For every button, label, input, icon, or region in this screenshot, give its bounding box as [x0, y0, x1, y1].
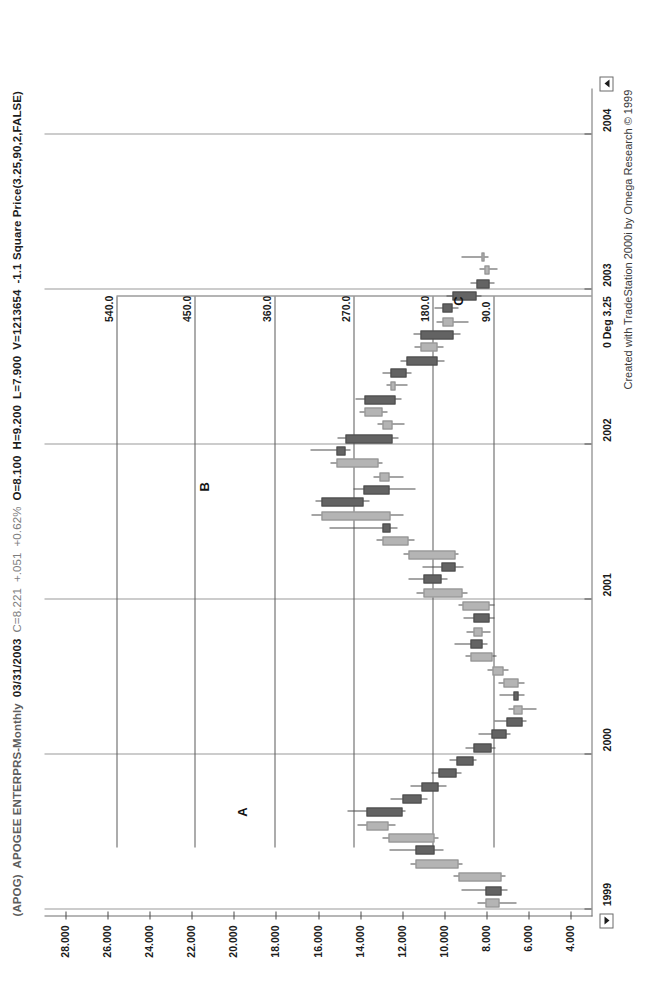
candle-body[interactable]	[421, 782, 439, 791]
candle-body[interactable]	[379, 472, 390, 481]
y-axis-tick	[65, 911, 66, 919]
candle-body[interactable]	[506, 717, 522, 726]
square-price-line	[194, 296, 195, 847]
candle-body[interactable]	[366, 807, 402, 816]
candle-body[interactable]	[473, 743, 491, 752]
candle-body[interactable]	[438, 768, 456, 777]
candle-body[interactable]	[420, 330, 454, 339]
square-price-line	[274, 296, 275, 847]
instrument-name-label: APOGEE ENTERPRS-Monthly	[10, 703, 22, 868]
y-axis-tick	[107, 911, 108, 919]
chart-annotation-a: A	[234, 807, 249, 816]
candle-body[interactable]	[442, 317, 454, 326]
candle-body[interactable]	[364, 395, 396, 404]
candle-body[interactable]	[492, 666, 503, 675]
close-value-label: C=8.221	[10, 588, 22, 633]
candle-body[interactable]	[462, 601, 489, 610]
candle-body[interactable]	[390, 368, 406, 377]
candle-body[interactable]	[476, 279, 489, 288]
candle-body[interactable]	[481, 252, 484, 261]
square-price-line	[493, 296, 494, 847]
square-price-line-label: 90.0	[479, 301, 491, 321]
candle-body[interactable]	[473, 613, 489, 622]
y-axis-label: 14.000	[353, 925, 365, 977]
candle-body[interactable]	[503, 678, 519, 687]
year-gridline	[44, 288, 591, 289]
y-axis-label: 10.000	[437, 925, 449, 977]
square-price-origin-label: 0 Deg 3.25	[600, 296, 612, 348]
candle-body[interactable]	[345, 434, 392, 443]
volume-value-label: V=1213654	[10, 289, 22, 349]
price-plot-area[interactable]: 19992000200120022003200428.00026.00024.0…	[44, 88, 592, 916]
candle-body[interactable]	[491, 729, 506, 738]
candle-body[interactable]	[364, 407, 382, 416]
year-gridline	[44, 443, 591, 444]
square-price-line	[432, 296, 433, 847]
candle-body[interactable]	[485, 898, 500, 907]
y-axis-label: 28.000	[58, 925, 70, 977]
x-axis-tick	[584, 753, 591, 754]
symbol-label: (APOG)	[10, 874, 22, 916]
square-price-line-label: 360.0	[260, 295, 272, 321]
y-axis-tick	[486, 911, 487, 919]
chart-annotation-c: C	[450, 296, 465, 305]
y-axis-tick	[402, 911, 403, 919]
x-axis-tick	[584, 908, 591, 909]
change-percent-label: +0.62%	[10, 506, 22, 546]
candle-body[interactable]	[470, 652, 492, 661]
y-axis-tick	[149, 911, 150, 919]
candle-body[interactable]	[420, 342, 438, 351]
change-value-label: +.051	[10, 552, 22, 582]
y-axis-tick	[444, 911, 445, 919]
candle-body[interactable]	[484, 265, 489, 274]
year-gridline	[44, 908, 591, 909]
y-axis-tick	[570, 911, 571, 919]
candle-body[interactable]	[408, 550, 455, 559]
candle-body[interactable]	[363, 485, 389, 494]
y-axis-label: 6.000	[521, 925, 533, 977]
candle-body[interactable]	[423, 574, 441, 583]
y-axis-label: 12.000	[395, 925, 407, 977]
x-axis-label: 2000	[600, 728, 612, 751]
candle-body[interactable]	[513, 705, 521, 714]
y-axis-tick	[528, 911, 529, 919]
candle-body[interactable]	[321, 511, 390, 520]
candle-body[interactable]	[390, 381, 395, 390]
candle-body[interactable]	[456, 756, 473, 765]
open-value-label: O=8.100	[10, 455, 22, 500]
candle-body[interactable]	[382, 536, 408, 545]
x-axis-label: 2003	[600, 263, 612, 286]
scroll-right-arrow[interactable]	[599, 913, 613, 928]
y-axis-tick	[318, 911, 319, 919]
candle-body[interactable]	[513, 691, 518, 700]
candle-body[interactable]	[366, 821, 388, 830]
year-gridline	[44, 598, 591, 599]
candle-body[interactable]	[336, 458, 378, 467]
candle-body[interactable]	[485, 886, 501, 895]
candle-body[interactable]	[321, 497, 363, 506]
y-axis-label: 8.000	[479, 925, 491, 977]
low-value-label: L=7.900	[10, 355, 22, 398]
candle-body[interactable]	[458, 872, 500, 881]
candle-body[interactable]	[382, 523, 390, 532]
x-axis-tick	[584, 443, 591, 444]
candle-wick	[386, 384, 407, 385]
candle-body[interactable]	[406, 356, 438, 365]
candle-body[interactable]	[473, 627, 481, 636]
candle-body[interactable]	[415, 859, 458, 868]
scroll-left-arrow[interactable]	[599, 76, 613, 91]
y-axis-label: 24.000	[142, 925, 154, 977]
candle-body[interactable]	[441, 562, 456, 571]
candle-body[interactable]	[402, 794, 421, 803]
candle-body[interactable]	[382, 420, 393, 429]
candle-body[interactable]	[336, 446, 344, 455]
candle-body[interactable]	[388, 833, 434, 842]
candle-body[interactable]	[415, 845, 434, 854]
x-axis-tick	[584, 598, 591, 599]
candle-body[interactable]	[423, 588, 462, 597]
candle-wick	[499, 694, 523, 695]
square-price-line-label: 540.0	[102, 295, 114, 321]
y-axis-label: 20.000	[226, 925, 238, 977]
candle-body[interactable]	[470, 639, 482, 648]
y-axis-label: 26.000	[100, 925, 112, 977]
